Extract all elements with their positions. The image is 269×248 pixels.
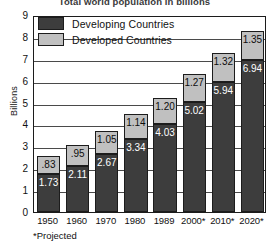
y-tick-0: 0 bbox=[14, 208, 28, 218]
bar-column: 5.941.32 bbox=[212, 16, 235, 212]
legend-swatch-developing-icon bbox=[38, 17, 64, 30]
x-tick-1950: 1950 bbox=[33, 215, 62, 226]
bar-value-developed: 1.20 bbox=[155, 102, 174, 112]
x-tick-1989: 1989 bbox=[150, 215, 179, 226]
bar-value-developing: 5.94 bbox=[214, 86, 233, 96]
legend-label-developing: Developing Countries bbox=[72, 18, 174, 30]
bar-value-developing: 5.02 bbox=[184, 106, 203, 116]
footnote: *Projected bbox=[33, 230, 77, 241]
bar-column: 6.941.35 bbox=[241, 16, 264, 212]
bar-value-developing: 2.67 bbox=[97, 158, 116, 168]
bar-value-developing: 3.34 bbox=[126, 143, 145, 153]
legend-swatch-developed-icon bbox=[38, 33, 64, 46]
x-tick-2000: 2000* bbox=[179, 215, 208, 226]
legend-label-developed: Developed Countries bbox=[72, 34, 172, 46]
bar-value-developing: 6.94 bbox=[243, 64, 262, 74]
legend-item-developing: Developing Countries bbox=[38, 17, 174, 30]
bar-value-developed: 1.14 bbox=[126, 118, 145, 128]
y-tick-1: 1 bbox=[14, 186, 28, 196]
bar-value-developed: 1.35 bbox=[243, 35, 262, 45]
bar-value-developed: .95 bbox=[71, 149, 85, 159]
x-tick-1970: 1970 bbox=[91, 215, 120, 226]
chart-title: Total world population in billions bbox=[0, 0, 269, 7]
bar-value-developed: 1.32 bbox=[214, 57, 233, 67]
bar-segment-developing bbox=[212, 82, 235, 212]
y-tick-4: 4 bbox=[14, 120, 28, 130]
x-tick-2010: 2010* bbox=[208, 215, 237, 226]
x-tick-2020: 2020* bbox=[237, 215, 266, 226]
y-tick-8: 8 bbox=[14, 33, 28, 43]
y-tick-6: 6 bbox=[14, 77, 28, 87]
bar-segment-developing bbox=[241, 60, 264, 212]
y-tick-7: 7 bbox=[14, 55, 28, 65]
bar-value-developing: 4.03 bbox=[155, 128, 174, 138]
bar-value-developed: .83 bbox=[42, 160, 56, 170]
y-tick-9: 9 bbox=[14, 11, 28, 21]
x-tick-1960: 1960 bbox=[62, 215, 91, 226]
chart-legend: Developing Countries Developed Countries bbox=[38, 17, 174, 49]
y-tick-5: 5 bbox=[14, 99, 28, 109]
y-tick-2: 2 bbox=[14, 164, 28, 174]
bar-value-developing: 1.73 bbox=[39, 178, 58, 188]
y-tick-3: 3 bbox=[14, 142, 28, 152]
bar-value-developing: 2.11 bbox=[68, 170, 87, 180]
legend-item-developed: Developed Countries bbox=[38, 33, 174, 46]
bar-value-developed: 1.05 bbox=[97, 135, 116, 145]
population-bar-chart: Total world population in billions Billi… bbox=[0, 0, 269, 248]
bar-column: 5.021.27 bbox=[183, 16, 206, 212]
bar-value-developed: 1.27 bbox=[184, 78, 203, 88]
bar-segment-developing bbox=[183, 102, 206, 212]
x-tick-1980: 1980 bbox=[120, 215, 149, 226]
